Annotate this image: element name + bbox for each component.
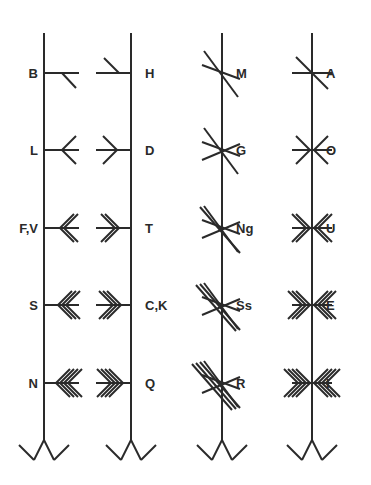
letter-label: S bbox=[29, 298, 38, 313]
letter-glyph-ck bbox=[96, 291, 131, 319]
foot-stroke bbox=[34, 440, 44, 460]
letter-label: B bbox=[29, 66, 38, 81]
column-aicme-ailme bbox=[284, 33, 340, 460]
feather-stroke bbox=[103, 150, 117, 164]
foot-stroke bbox=[44, 440, 54, 460]
foot-stroke bbox=[141, 445, 156, 460]
feather-stroke bbox=[200, 284, 240, 330]
foot-stroke bbox=[302, 440, 312, 460]
feather-stroke bbox=[103, 136, 117, 150]
foot-stroke bbox=[131, 440, 141, 460]
letter-glyph-d bbox=[96, 136, 131, 164]
letter-glyph-s bbox=[44, 291, 80, 319]
feather-stroke bbox=[104, 58, 119, 73]
letter-label: G bbox=[236, 143, 246, 158]
foot-stroke bbox=[121, 440, 131, 460]
letter-label: Ng bbox=[236, 221, 253, 236]
foot-stroke bbox=[232, 445, 247, 460]
letter-glyph-b bbox=[44, 73, 79, 88]
feather-stroke bbox=[200, 362, 240, 408]
letter-label: C,K bbox=[145, 298, 168, 313]
column-aicme-huatha bbox=[96, 33, 156, 460]
letter-label: I bbox=[326, 376, 330, 391]
letter-label: R bbox=[236, 376, 246, 391]
letter-label: E bbox=[326, 298, 335, 313]
letter-glyph-q bbox=[96, 369, 131, 397]
letter-label: O bbox=[326, 143, 336, 158]
letter-glyph-r bbox=[192, 361, 240, 410]
letter-label: H bbox=[145, 66, 154, 81]
stem-foot bbox=[106, 440, 156, 460]
letter-glyph-ng bbox=[200, 206, 240, 253]
letter-glyph-h bbox=[96, 58, 131, 73]
letter-label: T bbox=[145, 221, 153, 236]
foot-stroke bbox=[222, 440, 232, 460]
letter-glyph-ss bbox=[196, 283, 240, 331]
foot-stroke bbox=[54, 445, 69, 460]
foot-stroke bbox=[106, 445, 121, 460]
column-aicme-muine bbox=[192, 33, 247, 460]
letter-label: D bbox=[145, 143, 154, 158]
stem-foot bbox=[197, 440, 247, 460]
letter-label: M bbox=[236, 66, 247, 81]
feather-stroke bbox=[296, 136, 310, 150]
feather-stroke bbox=[296, 150, 310, 164]
column-aicme-beithe bbox=[19, 33, 82, 460]
foot-stroke bbox=[287, 445, 302, 460]
letter-label: F,V bbox=[19, 221, 38, 236]
letter-glyph-t bbox=[96, 214, 131, 242]
foot-stroke bbox=[197, 445, 212, 460]
feather-stroke bbox=[62, 73, 76, 88]
ogham-diagram: BLF,VSNHDTC,KQMGNgSsRAOUEI bbox=[0, 0, 371, 485]
letter-label: Ss bbox=[236, 298, 252, 313]
feather-stroke bbox=[62, 150, 76, 164]
feather-stroke bbox=[200, 207, 240, 253]
letter-glyph-l bbox=[44, 136, 79, 164]
letter-label: Q bbox=[145, 376, 155, 391]
stem-foot bbox=[287, 440, 337, 460]
stem-foot bbox=[19, 440, 69, 460]
feather-stroke bbox=[62, 136, 76, 150]
foot-stroke bbox=[322, 445, 337, 460]
foot-stroke bbox=[212, 440, 222, 460]
letter-glyph-fv bbox=[44, 214, 79, 242]
letter-glyph-n bbox=[44, 369, 82, 397]
letter-label: U bbox=[326, 221, 335, 236]
letter-label: L bbox=[30, 143, 38, 158]
foot-stroke bbox=[312, 440, 322, 460]
letter-label: N bbox=[29, 376, 38, 391]
letter-label: A bbox=[326, 66, 336, 81]
foot-stroke bbox=[19, 445, 34, 460]
